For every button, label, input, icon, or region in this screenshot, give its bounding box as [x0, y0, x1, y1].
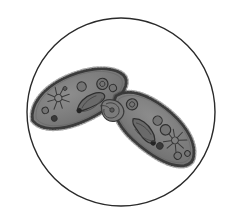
microscope-illustration — [0, 0, 227, 219]
figure-root: Two conjugating ciliate protozoa (Parame… — [0, 0, 227, 219]
